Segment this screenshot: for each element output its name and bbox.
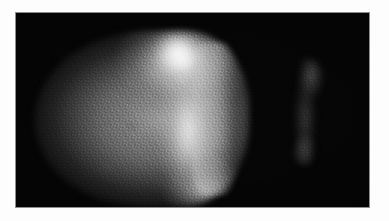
liver-hot-spot-region bbox=[152, 33, 204, 73]
spleen-region bbox=[284, 58, 328, 166]
spleen-inferior-pole bbox=[292, 133, 318, 173]
counting-noise-texture bbox=[16, 13, 369, 207]
field-vignette bbox=[16, 13, 369, 207]
detector-texture-layer bbox=[16, 13, 369, 207]
screenshot-root bbox=[0, 0, 389, 221]
liver-bright-band-region bbox=[166, 69, 206, 193]
mottle-texture bbox=[16, 13, 369, 207]
photo-border bbox=[0, 0, 389, 221]
detector-grid-texture bbox=[16, 13, 369, 207]
liver-region bbox=[34, 31, 249, 207]
scintigraphy-scan-field bbox=[16, 13, 369, 207]
liver-right-margin bbox=[192, 43, 244, 195]
